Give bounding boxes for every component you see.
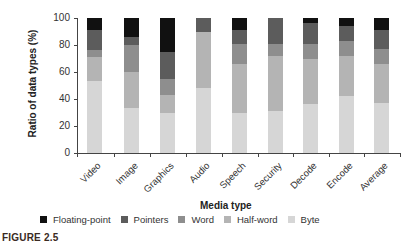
legend-swatch-icon	[121, 216, 128, 223]
bar-segment-half-word	[339, 56, 354, 97]
x-tick-mark	[222, 153, 223, 157]
legend-swatch-icon	[224, 216, 231, 223]
bar-segment-floating-point	[160, 18, 175, 52]
x-tick-mark	[364, 153, 365, 157]
legend-item-floating-point: Floating-point	[40, 214, 111, 225]
bar-segment-pointers	[232, 30, 247, 44]
bar-segment-floating-point	[124, 18, 139, 37]
x-tick-mark	[293, 153, 294, 157]
x-tick-label: Average	[325, 160, 389, 224]
legend-label: Byte	[301, 214, 320, 225]
y-axis-line	[77, 18, 78, 153]
figure-label: FIGURE 2.5	[2, 232, 58, 243]
bar-segment-word	[339, 41, 354, 56]
bar-decode	[303, 18, 318, 153]
bar-segment-half-word	[160, 95, 175, 113]
bar-segment-byte	[303, 104, 318, 153]
bar-segment-half-word	[196, 32, 211, 89]
legend-label: Floating-point	[53, 214, 111, 225]
bar-segment-half-word	[303, 59, 318, 105]
x-tick-mark	[258, 153, 259, 157]
x-axis-line	[77, 153, 401, 154]
legend-item-word: Word	[178, 214, 214, 225]
legend-label: Half-word	[237, 214, 278, 225]
bar-graphics	[160, 18, 175, 153]
bar-segment-byte	[160, 113, 175, 154]
y-tick-label: 20	[46, 120, 70, 131]
bar-segment-word	[232, 44, 247, 64]
bar-segment-half-word	[268, 56, 283, 111]
legend-swatch-icon	[288, 216, 295, 223]
x-tick-mark	[186, 153, 187, 157]
bar-segment-byte	[124, 108, 139, 153]
legend-item-pointers: Pointers	[121, 214, 169, 225]
y-axis-title: Ratio of data types (%)	[27, 24, 38, 144]
stacked-bar-chart: Ratio of data types (%) 020406080100 Vid…	[0, 0, 416, 245]
bar-segment-byte	[374, 103, 389, 153]
bar-segment-pointers	[87, 30, 102, 50]
x-tick-mark	[114, 153, 115, 157]
bar-segment-pointers	[160, 52, 175, 79]
bar-segment-floating-point	[339, 18, 354, 26]
bar-segment-pointers	[339, 26, 354, 41]
y-tick-label: 100	[46, 12, 70, 23]
bar-image	[124, 18, 139, 153]
bar-segment-byte	[196, 88, 211, 153]
legend-label: Word	[191, 214, 214, 225]
x-tick-mark	[150, 153, 151, 157]
bar-segment-byte	[339, 96, 354, 153]
bar-audio	[196, 18, 211, 153]
y-tick-label: 80	[46, 39, 70, 50]
bar-segment-word	[87, 50, 102, 57]
legend: Floating-pointPointersWordHalf-wordByte	[40, 214, 330, 225]
bar-segment-half-word	[124, 72, 139, 108]
bar-segment-pointers	[196, 18, 211, 32]
legend-swatch-icon	[178, 216, 185, 223]
bar-segment-pointers	[303, 23, 318, 43]
bar-segment-pointers	[268, 18, 283, 44]
x-axis-title: Media type	[200, 200, 252, 211]
y-tick-label: 60	[46, 66, 70, 77]
bar-encode	[339, 18, 354, 153]
legend-swatch-icon	[40, 216, 47, 223]
y-tick-label: 0	[46, 147, 70, 158]
bar-segment-word	[374, 49, 389, 64]
bar-segment-floating-point	[87, 18, 102, 30]
bar-segment-word	[160, 79, 175, 95]
y-tick-label: 40	[46, 93, 70, 104]
bar-segment-byte	[232, 113, 247, 154]
bar-segment-word	[303, 44, 318, 59]
bar-segment-word	[124, 45, 139, 72]
bar-average	[374, 18, 389, 153]
bar-segment-half-word	[232, 64, 247, 113]
bar-segment-byte	[87, 81, 102, 153]
bar-segment-pointers	[124, 37, 139, 45]
x-tick-mark	[77, 153, 78, 157]
bar-segment-byte	[268, 111, 283, 153]
x-tick-mark	[400, 153, 401, 157]
x-tick-mark	[329, 153, 330, 157]
legend-item-byte: Byte	[288, 214, 320, 225]
bar-segment-floating-point	[374, 18, 389, 30]
legend-label: Pointers	[134, 214, 169, 225]
bar-segment-floating-point	[232, 18, 247, 30]
bar-security	[268, 18, 283, 153]
bar-segment-half-word	[374, 64, 389, 103]
bar-segment-word	[268, 44, 283, 56]
bar-segment-half-word	[87, 57, 102, 81]
bar-video	[87, 18, 102, 153]
bar-segment-pointers	[374, 30, 389, 49]
bar-speech	[232, 18, 247, 153]
legend-item-half-word: Half-word	[224, 214, 278, 225]
